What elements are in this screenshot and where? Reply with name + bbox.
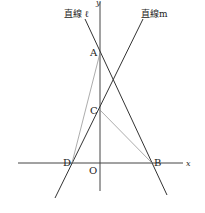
line-m-label: 直線m [141, 8, 168, 19]
y-axis-label: y [95, 0, 101, 7]
x-axis-label: x [186, 159, 191, 168]
point-c-label: C [90, 105, 98, 116]
point-b-label: B [154, 157, 161, 168]
line-m [55, 19, 143, 198]
line-l-label: 直線 ℓ [64, 8, 89, 19]
point-a-label: A [89, 47, 98, 58]
coordinate-diagram: x y O 直線 ℓ 直線m A C D B [0, 0, 205, 213]
segment-cb [100, 110, 152, 163]
point-d-label: D [63, 157, 71, 168]
origin-label: O [89, 165, 97, 176]
